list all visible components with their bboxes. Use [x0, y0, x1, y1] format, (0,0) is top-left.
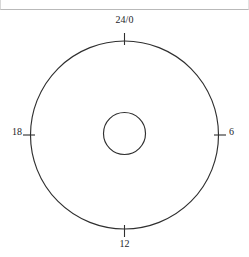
dial-label-left: 18 — [12, 126, 32, 137]
inner-circle — [104, 113, 146, 155]
clock-dial-graphic — [0, 0, 249, 257]
dial-label-right: 6 — [229, 126, 249, 137]
page-canvas: 24/0 6 12 18 — [0, 0, 249, 257]
dial-label-bottom: 12 — [0, 238, 249, 249]
dial-label-top: 24/0 — [0, 14, 249, 25]
outer-circle — [31, 41, 219, 229]
